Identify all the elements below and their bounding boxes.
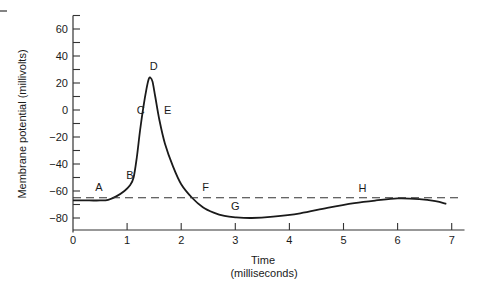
x-tick-label: 5 [340,234,346,246]
point-label-f: F [202,181,209,193]
x-tick-label: 6 [395,234,401,246]
y-tick-label: 40 [56,50,68,62]
y-tick-label: 20 [56,77,68,89]
plot-series [73,77,463,218]
y-tick-label: −80 [49,212,68,224]
y-tick-label: 60 [56,23,68,35]
x-axis: 01234567 [70,223,465,246]
y-tick-label: −60 [49,185,68,197]
point-label-g: G [231,200,240,212]
x-tick-label: 7 [449,234,455,246]
y-tick-label: −20 [49,131,68,143]
point-label-e: E [164,104,171,116]
y-tick-label: 0 [62,104,68,116]
x-tick-label: 4 [286,234,292,246]
action-potential-curve [73,77,446,218]
x-axis-title-line1: Time [251,254,275,266]
action-potential-chart: 6040200−20−40−60−80 01234567 Membrane po… [0,0,477,290]
x-tick-label: 2 [178,234,184,246]
point-label-a: A [95,181,103,193]
x-tick-label: 1 [124,234,130,246]
point-label-h: H [358,182,366,194]
y-axis-title: Membrane potential (millivolts) [16,49,28,198]
point-labels: ABCDEFGH [95,60,366,212]
x-tick-label: 3 [232,234,238,246]
point-label-c: C [137,104,145,116]
x-tick-label: 0 [70,234,76,246]
x-axis-title-line2: (milliseconds) [230,267,297,279]
point-label-b: B [126,169,133,181]
point-label-d: D [150,60,158,72]
y-tick-label: −40 [49,158,68,170]
